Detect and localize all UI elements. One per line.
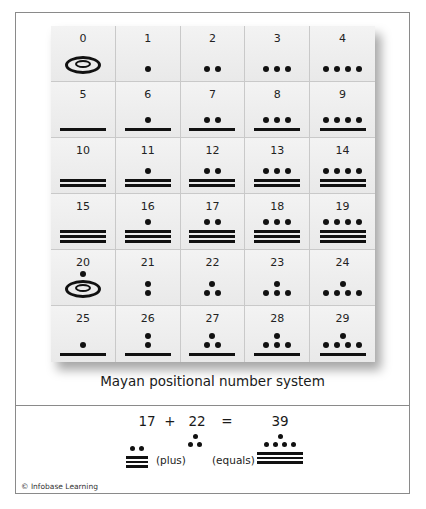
number-cell: 5	[51, 82, 116, 138]
mayan-glyph	[245, 333, 309, 356]
upper-position-dots	[340, 333, 346, 339]
unit-dots	[145, 290, 151, 296]
dot-icon	[285, 219, 291, 225]
unit-dots	[263, 290, 291, 296]
mayan-glyph	[245, 281, 309, 299]
dot-icon	[334, 66, 340, 72]
dot-icon	[263, 117, 269, 123]
bar-icon	[60, 230, 106, 233]
mayan-glyph	[245, 168, 309, 187]
bar-icon	[125, 235, 171, 238]
dot-icon	[345, 168, 351, 174]
dot-icon	[356, 290, 362, 296]
mayan-glyph	[51, 228, 115, 243]
number-cell: 23	[245, 250, 310, 306]
bar-icon	[60, 184, 106, 187]
dot-icon	[323, 168, 329, 174]
number-grid: 0123456789101112131415161718192021222324…	[51, 26, 375, 362]
number-cell: 22	[181, 250, 246, 306]
dot-icon	[345, 290, 351, 296]
bar-icon	[125, 179, 171, 182]
dot-icon	[263, 219, 269, 225]
cell-number-label: 17	[181, 200, 245, 213]
unit-dots	[204, 66, 221, 72]
bar-icon	[189, 235, 235, 238]
bar-icon	[320, 179, 366, 182]
mayan-glyph	[181, 66, 245, 75]
number-cell: 29	[310, 306, 375, 362]
number-cell: 2	[181, 26, 246, 82]
bar-icon	[320, 353, 366, 356]
unit-dots	[145, 117, 151, 123]
number-cell: 17	[181, 194, 246, 250]
mayan-glyph	[245, 117, 309, 131]
copyright-credit: © Infobase Learning	[21, 482, 98, 491]
dot-icon	[285, 290, 291, 296]
dot-icon	[334, 342, 340, 348]
unit-dots	[204, 117, 221, 123]
number-cell: 12	[181, 138, 246, 194]
bar-icon	[125, 230, 171, 233]
bar-icon	[320, 184, 366, 187]
bar-icon	[254, 240, 300, 243]
unit-dots	[263, 66, 291, 72]
dot-icon	[285, 168, 291, 174]
dot-icon	[145, 342, 151, 348]
upper-position-dots	[80, 271, 86, 277]
mayan-glyph	[51, 342, 115, 356]
bar-icon	[189, 353, 235, 356]
number-cell: 28	[245, 306, 310, 362]
number-cell: 6	[116, 82, 181, 138]
dot-icon	[285, 342, 291, 348]
dot-icon	[356, 168, 362, 174]
dot-icon	[204, 219, 210, 225]
dot-icon	[323, 290, 329, 296]
number-cell: 13	[245, 138, 310, 194]
dot-icon	[345, 117, 351, 123]
bar-icon	[189, 184, 235, 187]
mayan-glyph	[310, 66, 375, 75]
number-cell: 21	[116, 250, 181, 306]
number-cell: 27	[181, 306, 246, 362]
mayan-glyph	[181, 168, 245, 187]
unit-dots	[323, 66, 362, 72]
dot-icon	[274, 333, 280, 339]
number-cell: 15	[51, 194, 116, 250]
number-cell: 14	[310, 138, 375, 194]
dot-icon	[209, 281, 215, 287]
unit-dots	[323, 290, 362, 296]
dot-icon	[345, 66, 351, 72]
number-cell: 18	[245, 194, 310, 250]
dot-icon	[340, 333, 346, 339]
upper-position-dots	[209, 281, 215, 287]
unit-dots	[204, 342, 221, 348]
unit-dots	[263, 168, 291, 174]
cell-number-label: 6	[116, 88, 180, 101]
number-cell: 16	[116, 194, 181, 250]
number-cell: 7	[181, 82, 246, 138]
mayan-glyph	[116, 333, 180, 356]
figure-caption: Mayan positional number system	[15, 373, 410, 389]
cell-number-label: 3	[245, 32, 309, 45]
unit-dots	[204, 219, 221, 225]
bar-icon	[254, 235, 300, 238]
dot-icon	[204, 290, 210, 296]
mayan-glyph	[181, 219, 245, 243]
cell-number-label: 20	[51, 256, 115, 269]
dot-icon	[323, 342, 329, 348]
dot-icon	[285, 66, 291, 72]
dot-icon	[80, 342, 86, 348]
number-cell: 25	[51, 306, 116, 362]
dot-icon	[285, 117, 291, 123]
mayan-glyph	[310, 117, 375, 131]
unit-dots	[145, 66, 151, 72]
number-cell: 24	[310, 250, 375, 306]
dot-icon	[215, 219, 221, 225]
dot-icon	[263, 66, 269, 72]
cell-number-label: 12	[181, 144, 245, 157]
section-divider	[15, 405, 410, 406]
bar-icon	[189, 240, 235, 243]
dot-icon	[334, 219, 340, 225]
unit-dots	[145, 168, 151, 174]
cell-number-label: 8	[245, 88, 309, 101]
